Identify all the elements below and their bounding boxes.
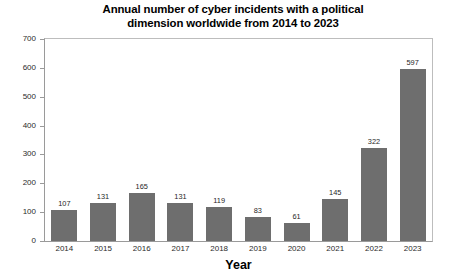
chart-title-line-1: Annual number of cyber incidents with a …	[28, 2, 438, 16]
bar[interactable]	[206, 207, 232, 241]
bar-value-label: 322	[368, 137, 380, 146]
bar-value-label: 61	[292, 212, 300, 221]
bar[interactable]	[90, 203, 116, 241]
y-axis-tick-mark	[40, 39, 44, 40]
x-axis-tick-label: 2021	[326, 244, 344, 253]
bar[interactable]	[400, 69, 426, 241]
y-axis-tick-mark	[40, 212, 44, 213]
x-axis-tick-label: 2018	[210, 244, 228, 253]
x-axis-tick-label: 2015	[94, 244, 112, 253]
y-axis-tick-mark	[40, 68, 44, 69]
y-axis-tick-label: 500	[23, 92, 36, 102]
x-axis-tick-label: 2022	[365, 244, 383, 253]
x-axis-tick-label: 2023	[404, 244, 422, 253]
bar-value-label: 119	[213, 196, 225, 205]
x-axis-tick-label: 2017	[172, 244, 190, 253]
y-axis-tick-label: 0	[32, 236, 36, 246]
bar-group: 131	[84, 39, 123, 241]
bar[interactable]	[51, 210, 77, 241]
y-axis-tick-label: 200	[23, 178, 36, 188]
bar[interactable]	[361, 148, 387, 241]
y-axis-tick-label: 300	[23, 149, 36, 159]
x-axis-tick-label: 2014	[55, 244, 73, 253]
y-axis-tick-label: 100	[23, 207, 36, 217]
y-axis-tick-mark	[40, 154, 44, 155]
bar-group: 107	[45, 39, 84, 241]
bar[interactable]	[284, 223, 310, 241]
bar-value-label: 107	[58, 199, 70, 208]
y-axis-tick-label: 400	[23, 121, 36, 131]
bars-container: 1071311651311198361145322597	[45, 39, 432, 241]
bar-group: 322	[355, 39, 394, 241]
bar-value-label: 145	[329, 188, 341, 197]
bar-value-label: 83	[254, 206, 262, 215]
bar-group: 61	[277, 39, 316, 241]
y-axis-tick-label: 700	[23, 34, 36, 44]
bar[interactable]	[245, 217, 271, 241]
bar-value-label: 597	[406, 58, 418, 67]
x-axis-tick-label: 2020	[288, 244, 306, 253]
bar[interactable]	[129, 193, 155, 241]
x-axis-title: Year	[44, 258, 433, 272]
bar-group: 131	[161, 39, 200, 241]
y-axis-tick-mark	[40, 126, 44, 127]
bar[interactable]	[322, 199, 348, 241]
bar-value-label: 131	[174, 192, 186, 201]
y-axis-tick-mark	[40, 183, 44, 184]
x-axis-tick-label: 2019	[249, 244, 267, 253]
chart-page: Annual number of cyber incidents with a …	[0, 0, 457, 278]
y-axis-tick-label: 600	[23, 63, 36, 73]
bar-group: 165	[122, 39, 161, 241]
page-title: Annual number of cyber incidents with a …	[28, 2, 438, 30]
x-axis: 2014201520162017201820192020202120222023	[45, 244, 432, 258]
bar-group: 119	[200, 39, 239, 241]
bar-group: 145	[316, 39, 355, 241]
bar-group: 83	[239, 39, 278, 241]
y-axis: 0100200300400500600700	[0, 38, 44, 242]
y-axis-tick-mark	[40, 241, 44, 242]
bar[interactable]	[167, 203, 193, 241]
bar-group: 597	[393, 39, 432, 241]
y-axis-tick-mark	[40, 97, 44, 98]
bar-value-label: 165	[136, 182, 148, 191]
chart-title-line-2: dimension worldwide from 2014 to 2023	[28, 16, 438, 30]
bar-value-label: 131	[97, 192, 109, 201]
x-axis-tick-label: 2016	[133, 244, 151, 253]
